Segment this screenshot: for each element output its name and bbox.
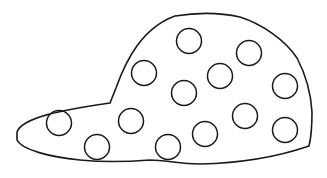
background [0, 0, 327, 178]
cap-drawing [0, 0, 327, 178]
